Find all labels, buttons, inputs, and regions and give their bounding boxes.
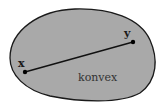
convex-region [10,9,155,101]
point-y-label: y [123,27,131,40]
convex-set-diagram: x y konvex [0,0,165,109]
set-label: konvex [78,71,118,84]
point-y [131,40,135,44]
point-x [23,70,27,74]
point-x-label: x [18,57,25,70]
